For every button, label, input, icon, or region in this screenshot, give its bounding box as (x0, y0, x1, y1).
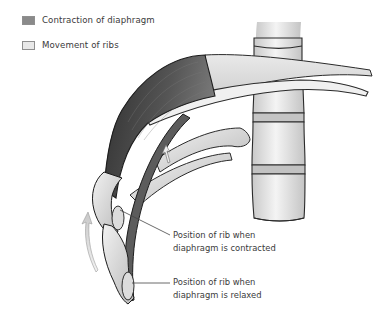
rib-end-contracted (112, 206, 124, 230)
callout-line: Position of rib when (173, 229, 276, 242)
diaphragm-rib-illustration (0, 0, 384, 316)
spine (252, 22, 305, 221)
rib-end-relaxed (122, 272, 134, 300)
callout-line: diaphragm is contracted (173, 242, 276, 255)
callout-line: Position of rib when (173, 276, 262, 289)
callout-contracted: Position of rib when diaphragm is contra… (173, 229, 276, 255)
upward-arrow-icon (82, 212, 98, 272)
callout-line: diaphragm is relaxed (173, 289, 262, 302)
rib-contracted (125, 114, 190, 302)
callout-relaxed: Position of rib when diaphragm is relaxe… (173, 276, 262, 302)
